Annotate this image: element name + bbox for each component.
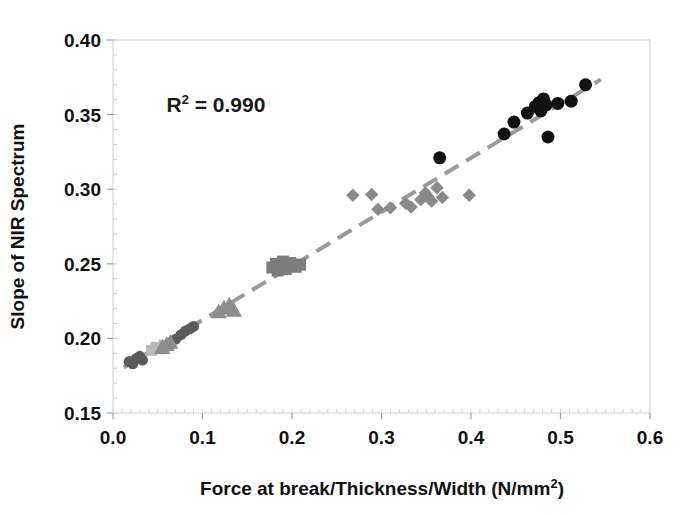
- x-tick-label: 0.2: [279, 427, 305, 448]
- data-point: [507, 116, 520, 129]
- data-point: [294, 259, 306, 271]
- r-squared-annotation: R2 = 0.990: [166, 92, 265, 116]
- x-tick-label: 0.4: [458, 427, 485, 448]
- x-tick-label: 0.5: [547, 427, 574, 448]
- x-axis-ticks: [113, 409, 650, 419]
- y-axis-tick-labels: 0.150.200.250.300.350.40: [64, 30, 101, 424]
- x-axis-tick-labels: 0.00.10.20.30.40.50.6: [100, 427, 663, 448]
- data-point: [565, 95, 578, 108]
- y-axis-title: Slope of NIR Spectrum: [7, 124, 28, 330]
- x-axis-title: Force at break/Thickness/Width (N/mm2): [200, 476, 564, 499]
- y-tick-label: 0.30: [64, 179, 101, 200]
- data-point: [188, 321, 199, 332]
- data-point: [498, 127, 511, 140]
- data-point: [551, 97, 564, 110]
- y-tick-label: 0.15: [64, 403, 101, 424]
- plot-canvas: 0.150.200.250.300.350.40 0.00.10.20.30.4…: [0, 0, 684, 515]
- data-point: [137, 355, 148, 366]
- x-tick-label: 0.6: [637, 427, 663, 448]
- y-tick-label: 0.20: [64, 328, 101, 349]
- y-tick-label: 0.25: [64, 254, 101, 275]
- data-point: [540, 98, 553, 111]
- data-point: [541, 130, 554, 143]
- x-tick-label: 0.1: [189, 427, 216, 448]
- scatter-plot-figure: · 0.150.200.250.300.350.40 0.00.10.20.30…: [0, 0, 684, 515]
- y-tick-label: 0.40: [64, 30, 101, 51]
- y-tick-label: 0.35: [64, 105, 101, 126]
- data-point: [579, 78, 592, 91]
- x-tick-label: 0.3: [368, 427, 394, 448]
- data-point: [433, 151, 446, 164]
- x-tick-label: 0.0: [100, 427, 126, 448]
